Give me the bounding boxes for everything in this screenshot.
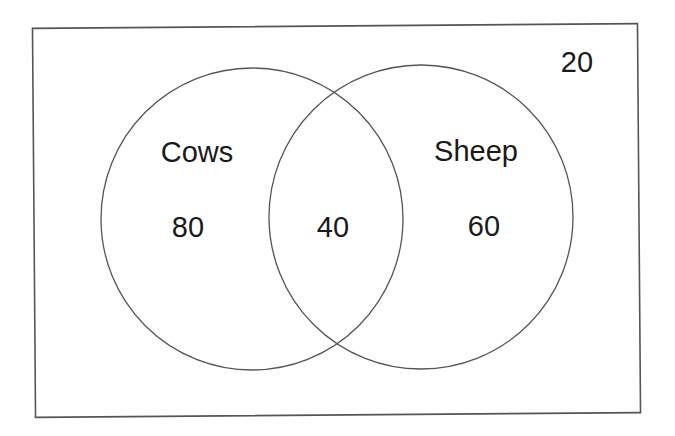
sheep-circle <box>269 65 573 369</box>
outside-count: 20 <box>561 48 593 77</box>
cows-circle <box>101 68 403 370</box>
sheep-only-count: 60 <box>468 212 500 241</box>
sheep-label: Sheep <box>434 137 518 166</box>
cows-label: Cows <box>161 138 234 167</box>
cows-only-count: 80 <box>172 213 204 242</box>
intersection-count: 40 <box>317 213 349 242</box>
